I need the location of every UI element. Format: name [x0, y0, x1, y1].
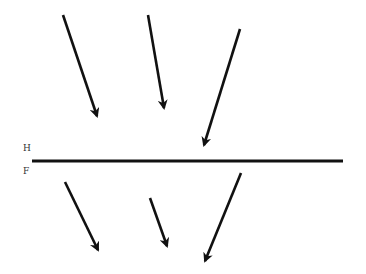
incident-arrow-icon-3 [204, 29, 240, 145]
label-lower-medium: F [23, 166, 29, 176]
incident-arrow-icon-1 [63, 15, 97, 116]
refracted-arrow-icon-1 [65, 182, 98, 250]
incident-arrow-icon-2 [148, 15, 164, 108]
refracted-arrow-icon-3 [205, 173, 241, 261]
label-upper-medium: H [23, 143, 31, 153]
refraction-diagram: H F [0, 0, 366, 274]
refracted-arrow-icon-2 [150, 198, 167, 246]
refracted-arrows [65, 173, 241, 261]
incident-arrows [63, 15, 240, 145]
